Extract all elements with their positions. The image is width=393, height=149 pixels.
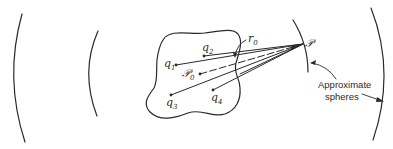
label-field-point-p: 𝒫 — [305, 37, 316, 50]
charge-q2-dot — [203, 55, 206, 58]
label-q2: q2 — [202, 41, 214, 56]
label-q4: q4 — [211, 91, 223, 106]
annotation-arrow-to-near-arc — [312, 63, 336, 79]
outer-left-sphere-arc — [14, 14, 25, 142]
annotation-approximate: Approximate — [318, 79, 371, 90]
annotation-spheres: spheres — [325, 91, 359, 102]
outer-right-sphere-arc — [371, 8, 384, 140]
origin-p0-dot — [199, 73, 202, 76]
inner-left-sphere-arc — [89, 31, 98, 116]
label-r0: r0 — [248, 32, 258, 47]
label-q1: q1 — [164, 57, 176, 72]
label-q3: q3 — [166, 96, 178, 111]
diagram-canvas: q1 q2 q3 q4 𝒫0 r0 𝒫 Approximate spheres — [0, 0, 393, 149]
label-p0: 𝒫0 — [182, 67, 195, 82]
line-q1-to-p — [176, 44, 303, 65]
line-p0-to-p — [200, 44, 303, 74]
annotation-arrowhead-near — [310, 60, 316, 65]
